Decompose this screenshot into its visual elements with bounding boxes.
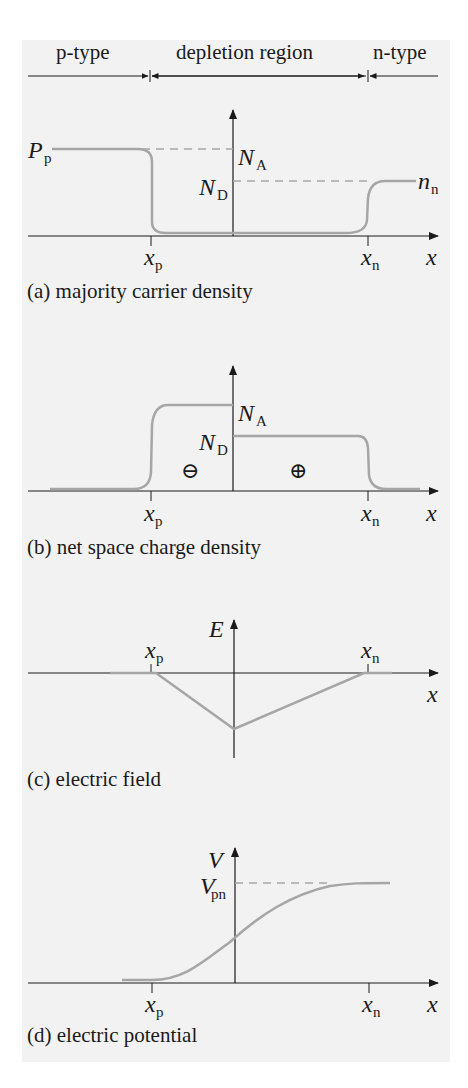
svg-text:n: n [372,257,380,273]
chart-d-electric-potential: V V pn x p x n x [28,847,438,1020]
svg-text:x: x [425,244,437,270]
svg-text:V: V [208,847,225,873]
positive-charge-icon: ⊕ [289,458,307,483]
svg-text:n: n [431,181,439,197]
svg-text:x: x [426,991,438,1017]
carrier-density-curve [52,149,416,233]
negative-charge-icon: ⊖ [181,458,199,483]
caption-d: (d) electric potential [27,1023,197,1048]
svg-text:n: n [418,168,430,194]
caption-a: (a) majority carrier density [27,279,253,304]
chart-a-majority-carrier: P p N A N D n n x p x n x [27,110,439,273]
electric-potential-curve [122,883,390,980]
svg-text:x: x [360,244,372,270]
svg-text:N: N [198,429,217,455]
svg-text:x: x [360,637,372,663]
svg-text:x: x [143,500,155,526]
svg-text:n: n [372,650,380,666]
svg-text:pn: pn [211,886,227,902]
svg-text:P: P [27,137,43,163]
svg-text:N: N [237,144,256,170]
svg-text:E: E [208,616,224,642]
chart-c-electric-field: E x p x n x [28,616,438,758]
chart-b-space-charge: N A N D ⊖ ⊕ x p x n x [28,366,438,529]
svg-text:x: x [426,681,438,707]
svg-text:x: x [143,244,155,270]
svg-text:A: A [256,157,267,173]
svg-text:x: x [144,991,156,1017]
svg-text:D: D [217,187,228,203]
region-dimension-line [28,70,438,82]
svg-text:x: x [360,500,372,526]
caption-c: (c) electric field [27,767,161,792]
svg-text:N: N [237,400,256,426]
svg-text:n: n [372,513,380,529]
svg-text:p: p [156,650,164,666]
space-charge-positive-curve [233,436,420,489]
svg-text:D: D [217,442,228,458]
svg-text:x: x [361,991,373,1017]
svg-text:p: p [155,257,163,273]
svg-text:x: x [425,500,437,526]
svg-text:A: A [256,413,267,429]
caption-b: (b) net space charge density [27,535,261,560]
svg-text:p: p [156,1004,164,1020]
svg-text:p: p [155,513,163,529]
svg-text:p: p [44,150,52,166]
svg-text:x: x [144,637,156,663]
electric-field-curve [110,673,392,729]
svg-text:n: n [373,1004,381,1020]
svg-text:N: N [198,174,217,200]
